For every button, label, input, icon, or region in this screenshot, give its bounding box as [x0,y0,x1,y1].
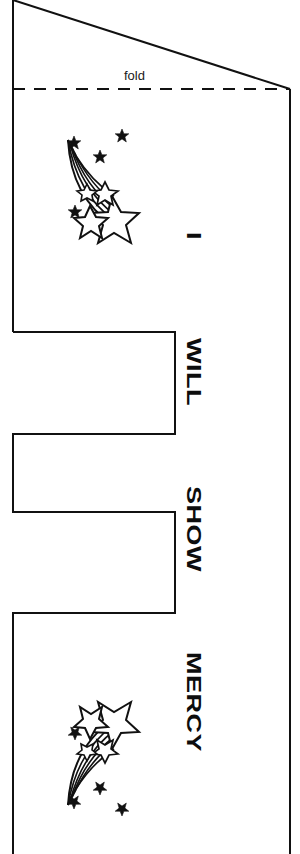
strip-word-will: WILL [182,338,206,406]
strip-word-show: SHOW [182,486,206,572]
strip-word-i: I [182,232,206,240]
shooting-star-top-illustration [67,129,139,243]
craft-template-sheet: A ABOU fold I WILL SHOW MERCY [0,0,300,854]
fold-label: fold [120,68,149,83]
template-artwork [0,0,300,854]
page-title-line-1: A [171,0,300,21]
page-title: A ABOU [171,0,300,46]
strip-word-mercy: MERCY [182,652,206,752]
shooting-star-bottom-illustration [67,702,139,816]
cut-outline [13,0,290,854]
page-title-line-2: ABOU [171,21,300,46]
